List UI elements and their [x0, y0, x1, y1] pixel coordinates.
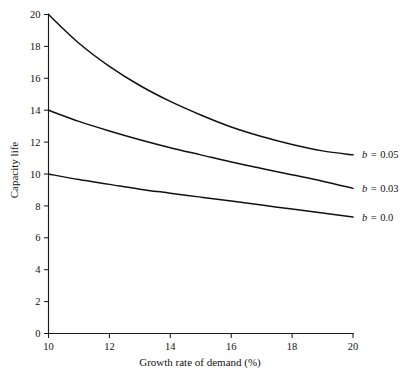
series-label-value-1: 0.03: [380, 183, 398, 194]
y-tick-label: 0: [35, 328, 40, 339]
y-tick-label: 10: [30, 169, 41, 180]
series-label-value-2: 0.0: [380, 212, 393, 223]
x-axis: 101214161820: [43, 334, 358, 352]
y-tick-label: 8: [35, 201, 40, 212]
y-tick-label: 4: [35, 264, 41, 275]
y-tick-label: 12: [30, 137, 41, 148]
series-label-b-0: b: [362, 149, 367, 160]
y-axis-tick-labels: 02468101214161820: [30, 9, 41, 339]
curve-series-0: [49, 15, 354, 155]
series-label-1: b=0.03: [362, 183, 399, 194]
series-label-eq-2: =: [371, 212, 377, 223]
y-tick-label: 16: [30, 73, 41, 84]
x-axis-title: Growth rate of demand (%): [139, 356, 261, 369]
x-tick-label: 14: [165, 341, 176, 352]
series-label-value-0: 0.05: [380, 149, 398, 160]
y-tick-label: 20: [30, 9, 41, 20]
chart-figure: 02468101214161820 101214161820 b=0.05b=0…: [0, 0, 408, 380]
data-curves: [49, 15, 354, 218]
series-label-0: b=0.05: [362, 149, 399, 160]
series-label-text-0: b=0.05: [362, 149, 399, 160]
chart-canvas: 02468101214161820 101214161820 b=0.05b=0…: [0, 0, 408, 380]
x-tick-label: 10: [43, 341, 54, 352]
x-tick-label: 12: [104, 341, 115, 352]
series-label-eq-0: =: [371, 149, 377, 160]
x-tick-label: 20: [348, 341, 359, 352]
curve-series-1: [49, 110, 354, 188]
y-axis-title: Capacity life: [8, 142, 20, 199]
series-label-text-1: b=0.03: [362, 183, 399, 194]
y-tick-label: 18: [30, 41, 41, 52]
series-label-b-1: b: [362, 183, 367, 194]
y-tick-label: 14: [30, 105, 41, 116]
series-label-eq-1: =: [371, 183, 377, 194]
x-axis-ticks: [49, 334, 354, 339]
series-labels: b=0.05b=0.03b=0.0: [362, 149, 399, 222]
series-label-2: b=0.0: [362, 212, 393, 223]
y-tick-label: 2: [35, 296, 40, 307]
y-axis: 02468101214161820: [30, 9, 49, 339]
x-tick-label: 16: [226, 341, 237, 352]
x-tick-label: 18: [287, 341, 298, 352]
x-axis-tick-labels: 101214161820: [43, 341, 358, 352]
series-label-text-2: b=0.0: [362, 212, 393, 223]
curve-series-2: [49, 174, 354, 217]
series-label-b-2: b: [362, 212, 367, 223]
y-tick-label: 6: [35, 232, 40, 243]
